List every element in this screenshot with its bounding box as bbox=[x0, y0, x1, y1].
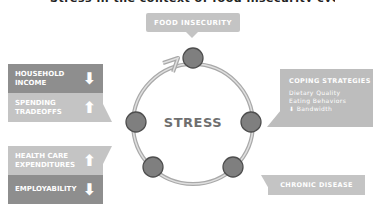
household-spending-group: HOUSEHOLD INCOME ⬇ SPENDING TRADEOFFS ⬆ bbox=[8, 64, 103, 122]
employability-row: EMPLOYABILITY ⬇ bbox=[8, 175, 103, 204]
health-care-row: HEALTH CARE EXPENDITURES ⬆ bbox=[8, 146, 103, 175]
health-pointer bbox=[103, 146, 113, 164]
arrow-down-icon: ⬇ bbox=[83, 182, 96, 198]
household-income-row: HOUSEHOLD INCOME ⬇ bbox=[8, 64, 103, 93]
node-chronic bbox=[223, 157, 243, 177]
node-coping bbox=[241, 112, 261, 132]
coping-strategies-box: COPING STRATEGIES Dietary Quality Eating… bbox=[280, 69, 373, 127]
arrow-up-icon: ⬆ bbox=[83, 100, 96, 116]
health-employability-group: HEALTH CARE EXPENDITURES ⬆ EMPLOYABILITY… bbox=[8, 146, 103, 204]
arrow-up-icon: ⬆ bbox=[83, 153, 96, 169]
coping-heading: COPING STRATEGIES bbox=[289, 77, 373, 85]
chronic-disease-label: CHRONIC DISEASE bbox=[280, 181, 353, 189]
household-income-label-1: HOUSEHOLD bbox=[15, 70, 64, 79]
employability-label: EMPLOYABILITY bbox=[15, 185, 76, 194]
coping-pointer bbox=[267, 110, 281, 127]
food-insecurity-pointer bbox=[186, 32, 198, 38]
arrow-down-icon: ⬇ bbox=[83, 71, 96, 87]
household-pointer bbox=[103, 104, 113, 122]
coping-item: Dietary Quality bbox=[289, 89, 373, 97]
food-insecurity-box: FOOD INSECURITY bbox=[146, 13, 240, 32]
center-label: STRESS bbox=[163, 115, 223, 130]
node-food-insecurity bbox=[183, 48, 203, 68]
household-income-label-2: INCOME bbox=[15, 79, 64, 88]
chronic-disease-box: CHRONIC DISEASE bbox=[268, 175, 365, 195]
spending-tradeoffs-label-2: TRADEOFFS bbox=[15, 108, 62, 117]
health-care-label-1: HEALTH CARE bbox=[15, 152, 75, 161]
coping-item: Eating Behaviors bbox=[289, 97, 373, 105]
chronic-pointer bbox=[261, 175, 269, 189]
health-care-label-2: EXPENDITURES bbox=[15, 161, 75, 170]
node-household bbox=[126, 112, 146, 132]
coping-item: ⬇ Bandwidth bbox=[289, 105, 373, 113]
node-health bbox=[143, 157, 163, 177]
food-insecurity-label: FOOD INSECURITY bbox=[154, 19, 232, 27]
spending-tradeoffs-label-1: SPENDING bbox=[15, 99, 62, 108]
spending-tradeoffs-row: SPENDING TRADEOFFS ⬆ bbox=[8, 93, 103, 122]
